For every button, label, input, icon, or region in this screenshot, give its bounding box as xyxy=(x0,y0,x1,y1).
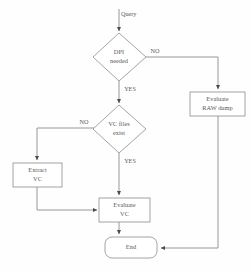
decision-vc-line2: exist xyxy=(113,129,125,136)
edge-extract-to-evaluate xyxy=(37,187,97,210)
label-dpi-no: NO xyxy=(151,47,160,54)
process-extract-line1: Extract xyxy=(28,166,47,173)
edge-raw-to-end xyxy=(161,116,218,248)
process-raw-line2: RAW dump xyxy=(202,104,232,111)
process-evaluate-line1: Evaluate xyxy=(113,201,136,208)
flowchart-canvas: Query DPI needed NO YES VC files exist N… xyxy=(0,0,250,272)
decision-vc-line1: VC files xyxy=(108,120,130,127)
edge-dpi-no-to-raw xyxy=(146,57,218,89)
decision-dpi-line2: needed xyxy=(110,57,129,64)
terminator-end-label: End xyxy=(126,243,137,250)
process-raw-line1: Evaluate xyxy=(206,95,229,102)
label-vc-yes: YES xyxy=(124,157,136,164)
label-dpi-yes: YES xyxy=(124,85,136,92)
label-vc-no: NO xyxy=(80,118,89,125)
process-extract-line2: VC xyxy=(33,175,42,182)
decision-dpi-line1: DPI xyxy=(114,48,124,55)
edge-vc-no-to-extract xyxy=(37,128,94,160)
process-evaluate-line2: VC xyxy=(120,210,129,217)
flowchart-diagram: Query DPI needed NO YES VC files exist N… xyxy=(0,0,250,272)
label-query: Query xyxy=(121,10,137,17)
